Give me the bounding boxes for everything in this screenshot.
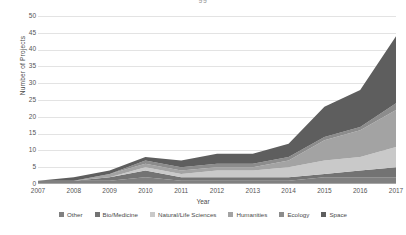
legend-swatch-icon	[95, 212, 100, 217]
legend-label: Other	[67, 211, 82, 218]
legend-swatch-icon	[150, 212, 155, 217]
legend-item[interactable]: Natural/Life Sciences	[150, 211, 216, 218]
x-tick-label: 2009	[93, 187, 127, 195]
legend-item[interactable]: Space	[321, 211, 347, 218]
y-tick-label: 25	[18, 97, 36, 104]
legend-item[interactable]: Ecology	[279, 211, 309, 218]
legend-swatch-icon	[228, 212, 233, 217]
legend-item[interactable]: Other	[59, 211, 82, 218]
x-tick-label: 2013	[236, 187, 270, 195]
legend-item[interactable]: Humanities	[228, 211, 267, 218]
y-axis-ticks: 05101520253035404550	[18, 10, 36, 190]
plot-area	[38, 16, 396, 184]
legend-label: Ecology	[287, 211, 309, 218]
x-tick-label: 2010	[128, 187, 162, 195]
x-tick-label: 2016	[343, 187, 377, 195]
x-tick-label: 2014	[272, 187, 306, 195]
y-tick-label: 40	[18, 46, 36, 53]
legend-label: Space	[329, 211, 347, 218]
x-tick-label: 2007	[21, 187, 55, 195]
legend-label: Bio/Medicine	[103, 211, 138, 218]
y-tick-label: 50	[18, 13, 36, 20]
stacked-area-chart: gg Number of Projects 051015202530354045…	[0, 0, 406, 235]
x-tick-label: 2015	[307, 187, 341, 195]
y-tick-label: 5	[18, 164, 36, 171]
y-tick-label: 30	[18, 80, 36, 87]
legend-item[interactable]: Bio/Medicine	[95, 211, 138, 218]
y-tick-label: 15	[18, 130, 36, 137]
chart-legend: OtherBio/MedicineNatural/Life SciencesHu…	[0, 211, 406, 218]
area-series-group	[38, 16, 396, 184]
x-tick-label: 2008	[57, 187, 91, 195]
y-tick-label: 35	[18, 63, 36, 70]
x-tick-label: 2012	[200, 187, 234, 195]
legend-swatch-icon	[59, 212, 64, 217]
legend-label: Humanities	[236, 211, 267, 218]
x-axis-label: Year	[0, 198, 406, 205]
y-tick-label: 20	[18, 114, 36, 121]
legend-swatch-icon	[279, 212, 284, 217]
x-tick-label: 2011	[164, 187, 198, 195]
y-tick-label: 45	[18, 30, 36, 37]
legend-swatch-icon	[321, 212, 326, 217]
y-tick-label: 10	[18, 147, 36, 154]
x-tick-label: 2017	[379, 187, 406, 195]
chart-title-cropped: gg	[0, 0, 406, 9]
legend-label: Natural/Life Sciences	[158, 211, 216, 218]
x-axis-line	[38, 183, 396, 184]
